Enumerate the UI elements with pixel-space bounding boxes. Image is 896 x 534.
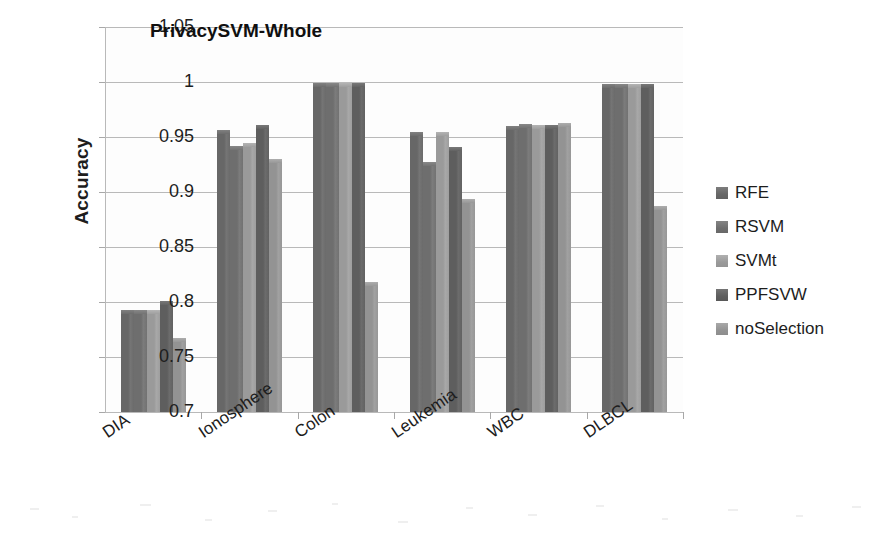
legend-item[interactable]: SVMt: [716, 244, 891, 278]
y-tick-label: 0.8: [114, 291, 194, 312]
bar-group: [410, 27, 475, 412]
y-tick-mark: [99, 137, 105, 138]
bar[interactable]: [558, 123, 571, 412]
bar[interactable]: [243, 143, 256, 413]
chart-title: PrivacySVM-Whole: [150, 20, 322, 42]
y-tick-mark: [99, 247, 105, 248]
bar[interactable]: [519, 124, 532, 412]
y-tick-label: 1: [114, 71, 194, 92]
legend-swatch: [716, 187, 728, 199]
bar[interactable]: [256, 125, 269, 412]
legend-label: RFE: [735, 183, 769, 203]
bar-body: [602, 88, 615, 412]
bar[interactable]: [654, 206, 667, 412]
bar[interactable]: [641, 84, 654, 412]
x-tick-mark: [298, 412, 299, 419]
bar[interactable]: [410, 132, 423, 413]
bar-body: [449, 151, 462, 412]
bar-group: [217, 27, 282, 412]
bar-body: [410, 136, 423, 413]
legend-label: PPFSVW: [735, 285, 807, 305]
legend-item[interactable]: noSelection: [716, 312, 891, 346]
scan-noise: [0, 494, 896, 534]
legend-item[interactable]: RSVM: [716, 210, 891, 244]
bar-body: [339, 87, 352, 412]
bar[interactable]: [506, 126, 519, 412]
bar-body: [326, 87, 339, 412]
y-axis-line: [105, 27, 106, 412]
bar[interactable]: [269, 159, 282, 412]
bar[interactable]: [436, 132, 449, 413]
y-tick-mark: [99, 27, 105, 28]
bar-body: [506, 130, 519, 412]
legend-item[interactable]: PPFSVW: [716, 278, 891, 312]
bar[interactable]: [217, 130, 230, 412]
bar-body: [519, 128, 532, 412]
bar[interactable]: [615, 84, 628, 412]
legend-swatch: [716, 323, 728, 335]
x-tick-mark: [201, 412, 202, 419]
bar-body: [436, 136, 449, 413]
bar[interactable]: [462, 199, 475, 412]
y-tick-mark: [99, 302, 105, 303]
y-axis-title: Accuracy: [71, 111, 93, 251]
legend-label: noSelection: [735, 319, 824, 339]
legend-swatch: [716, 289, 728, 301]
legend-item[interactable]: RFE: [716, 176, 891, 210]
bar[interactable]: [352, 83, 365, 412]
bar-group: [313, 27, 378, 412]
legend-swatch: [716, 221, 728, 233]
bar-body: [615, 88, 628, 412]
x-tick-mark: [683, 412, 684, 419]
bar-body: [256, 129, 269, 412]
y-tick-label: 0.75: [114, 346, 194, 367]
bar-chart: Accuracy 1.0510.950.90.850.80.750.7 Priv…: [0, 0, 896, 534]
bar[interactable]: [365, 282, 378, 412]
bar-body: [313, 87, 326, 412]
x-tick-mark: [490, 412, 491, 419]
bar-body: [462, 203, 475, 412]
bar[interactable]: [230, 146, 243, 412]
bar[interactable]: [313, 83, 326, 412]
bar-body: [641, 88, 654, 412]
y-tick-mark: [99, 357, 105, 358]
bar-body: [654, 210, 667, 412]
x-tick-mark: [394, 412, 395, 419]
bar[interactable]: [423, 162, 436, 412]
y-tick-label: 0.85: [114, 236, 194, 257]
bar-body: [230, 150, 243, 412]
bar-body: [558, 127, 571, 412]
y-tick-label: 0.95: [114, 126, 194, 147]
bar-body: [423, 166, 436, 412]
bar[interactable]: [545, 125, 558, 412]
bar[interactable]: [532, 125, 545, 412]
bar[interactable]: [449, 147, 462, 412]
x-tick-mark: [587, 412, 588, 419]
y-tick-mark: [99, 412, 105, 413]
bar[interactable]: [326, 83, 339, 412]
y-tick-label: 0.9: [114, 181, 194, 202]
bar-body: [352, 87, 365, 412]
bar[interactable]: [602, 84, 615, 412]
bar[interactable]: [339, 83, 352, 412]
bar-body: [365, 286, 378, 412]
bar-group: [602, 27, 667, 412]
bar-body: [545, 129, 558, 412]
bar-body: [243, 147, 256, 413]
legend: RFERSVMSVMtPPFSVWnoSelection: [716, 176, 891, 346]
legend-label: SVMt: [735, 251, 777, 271]
bar-body: [269, 163, 282, 412]
bar-body: [628, 88, 641, 412]
y-tick-mark: [99, 192, 105, 193]
legend-label: RSVM: [735, 217, 784, 237]
y-tick-mark: [99, 82, 105, 83]
bar-body: [217, 134, 230, 412]
bar-body: [532, 129, 545, 412]
legend-swatch: [716, 255, 728, 267]
bar-group: [506, 27, 571, 412]
bar[interactable]: [628, 84, 641, 412]
